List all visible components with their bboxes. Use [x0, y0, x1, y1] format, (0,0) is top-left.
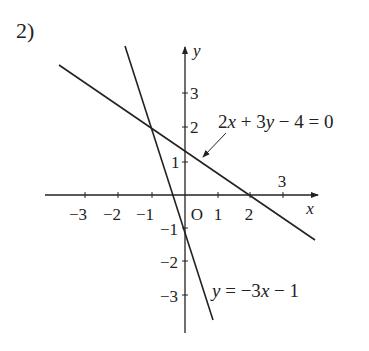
- y-axis-label: y: [191, 41, 201, 60]
- y-tick-label: 1: [171, 153, 180, 172]
- x-tick-label: −1: [136, 205, 154, 224]
- coordinate-plane-figure: 2) −3 −2 −1 1 2 3 O x 3 2 1 −1 −2 −3: [0, 0, 369, 351]
- y-tick-label: 3: [190, 84, 199, 103]
- problem-number: 2): [16, 18, 34, 43]
- y-tick-label: −2: [160, 253, 178, 272]
- y-tick-label: −3: [160, 287, 178, 306]
- x-tick-label: −3: [69, 205, 87, 224]
- x-tick-label: 1: [214, 205, 223, 224]
- equation-label-line-1: 2x + 3y − 4 = 0: [218, 111, 334, 132]
- y-tick-label: −1: [160, 220, 178, 239]
- y-tick-label: 2: [190, 118, 199, 137]
- line-y-eq-neg3x-minus-1: [125, 46, 213, 320]
- x-tick-label: 3: [278, 172, 287, 191]
- x-axis-label: x: [305, 199, 314, 218]
- annotation-arrow: [203, 133, 226, 157]
- line-2x-plus-3y-minus-4: [59, 65, 315, 240]
- equation-label-line-2: y = −3x − 1: [210, 280, 299, 301]
- origin-label: O: [191, 205, 203, 224]
- x-tick-label: 2: [245, 205, 254, 224]
- x-tick-label: −2: [103, 205, 121, 224]
